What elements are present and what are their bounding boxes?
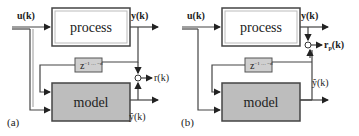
estimate-label: ŷ(k)	[129, 111, 146, 123]
input-label: u(k)	[17, 10, 35, 22]
output-label: y(k)	[131, 10, 148, 22]
panel-b: process model z−1 … −d u(k) y(k) rp(k) ŷ…	[181, 8, 344, 129]
output-label: y(k)	[301, 10, 318, 22]
estimate-label: ŷ(k)	[312, 77, 329, 89]
process-label: process	[240, 20, 282, 35]
diagram: process model z−1 … −d u(k) y(k) r(k) ŷ(…	[0, 0, 359, 136]
model-label: model	[244, 95, 279, 110]
process-label: process	[70, 20, 112, 35]
summing-node	[135, 75, 141, 81]
residual-label: rp(k)	[324, 39, 344, 51]
panel-caption: (b)	[181, 116, 194, 129]
summing-node	[305, 42, 311, 48]
residual-label: r(k)	[154, 72, 169, 84]
panel-caption: (a)	[7, 116, 20, 129]
input-label: u(k)	[187, 10, 205, 22]
model-label: model	[74, 95, 109, 110]
panel-a: process model z−1 … −d u(k) y(k) r(k) ŷ(…	[7, 8, 169, 129]
